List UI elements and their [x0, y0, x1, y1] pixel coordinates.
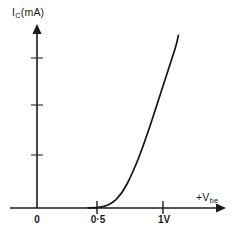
x-axis-label: +Vbe [196, 191, 218, 205]
x-axis-label-subscript: be [210, 196, 219, 205]
figure-container: IC(mA) +Vbe 0 0·5 1V [0, 0, 237, 246]
x-tick-label-origin: 0 [29, 214, 45, 225]
plot-area [0, 0, 237, 246]
y-axis-label: IC(mA) [12, 6, 44, 20]
y-axis-arrow-icon [32, 24, 41, 34]
characteristic-curve [88, 35, 178, 207]
x-tick-label-0-5: 0·5 [85, 214, 111, 225]
x-tick-label-1v: 1V [151, 214, 177, 225]
y-axis-label-unit: (mA) [21, 6, 45, 18]
x-axis-label-symbol: +V [196, 191, 210, 203]
